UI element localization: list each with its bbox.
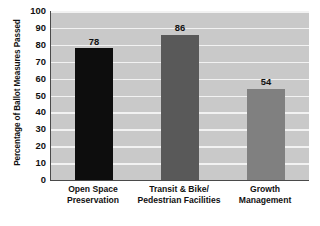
bar-value-label: 54 (261, 77, 271, 87)
y-tick-label: 50 (22, 91, 46, 100)
bar-value-label: 78 (89, 37, 99, 47)
x-axis-label-line: Transit & Bike/ (136, 184, 222, 195)
y-axis-title: Percentage of Ballot Measures Passed (13, 2, 22, 184)
x-axis-label-line: Growth (222, 184, 308, 195)
y-tick-label: 70 (22, 57, 46, 66)
bar: 86 (161, 35, 200, 180)
y-tick-label: 100 (22, 6, 46, 15)
y-tick-label: 10 (22, 158, 46, 167)
x-axis-label: Transit & Bike/Pedestrian Facilities (136, 184, 222, 207)
x-axis-label: Open SpacePreservation (50, 184, 136, 207)
y-axis-tick-labels: 1009080706050403020100 (22, 0, 46, 226)
bars-group: 788654 (51, 11, 309, 180)
y-tick-label: 60 (22, 74, 46, 83)
x-axis-label-line: Open Space (50, 184, 136, 195)
x-axis-label: GrowthManagement (222, 184, 308, 207)
y-tick-label: 40 (22, 108, 46, 117)
bar: 78 (75, 48, 114, 180)
y-tick-label: 80 (22, 40, 46, 49)
y-tick-label: 20 (22, 141, 46, 150)
x-axis-label-line: Pedestrian Facilities (136, 195, 222, 206)
x-axis-label-line: Preservation (50, 195, 136, 206)
plot-area: 788654 (50, 11, 309, 181)
bar-chart: Percentage of Ballot Measures Passed 100… (0, 0, 320, 226)
x-axis-category-labels: Open SpacePreservationTransit & Bike/Ped… (50, 184, 308, 224)
x-axis-label-line: Management (222, 195, 308, 206)
bar: 54 (247, 89, 286, 180)
y-tick-label: 0 (22, 175, 46, 184)
bar-value-label: 86 (175, 23, 185, 33)
y-tick-label: 30 (22, 125, 46, 134)
y-tick-label: 90 (22, 23, 46, 32)
